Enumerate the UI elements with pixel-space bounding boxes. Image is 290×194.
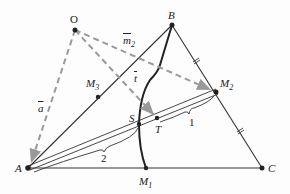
label-t: T: [155, 124, 161, 135]
label-b: B: [168, 10, 175, 21]
median-a-m2: [28, 89, 218, 170]
label-m3: M3: [86, 78, 99, 92]
label-m1: M1: [139, 176, 152, 190]
ratio-label-2: 2: [101, 153, 107, 164]
ratio-label-1: 1: [189, 117, 195, 128]
label-m3-text: M: [86, 77, 95, 89]
label-m1-sub: 1: [148, 181, 152, 190]
label-a: A: [15, 163, 22, 174]
vector-a-label: a: [38, 103, 44, 114]
label-m2-sub: 2: [229, 83, 233, 92]
points: [25, 23, 264, 171]
label-s: S: [129, 113, 135, 124]
brace-2: [34, 128, 138, 172]
label-m2: M2: [220, 78, 233, 92]
label-m3-sub: 3: [95, 83, 99, 92]
vector-t-label: t: [134, 73, 137, 84]
vector-m2-label: m2: [123, 35, 135, 49]
vector-m2-text: m: [123, 34, 131, 46]
label-c: C: [268, 163, 275, 174]
centroid-diagram: O B A C M1 M2 M3 S T a m2 t 2 1: [0, 0, 290, 194]
label-m1-text: M: [139, 175, 148, 187]
diagram-canvas: [0, 0, 290, 194]
equal-ticks: [193, 58, 244, 134]
label-m2-text: M: [220, 77, 229, 89]
dashed-vectors: [31, 30, 211, 163]
curve-b-m1: [139, 25, 172, 168]
label-o: O: [70, 14, 78, 25]
vector-m2-sub: 2: [131, 40, 135, 49]
triangle-abc: [28, 25, 262, 168]
